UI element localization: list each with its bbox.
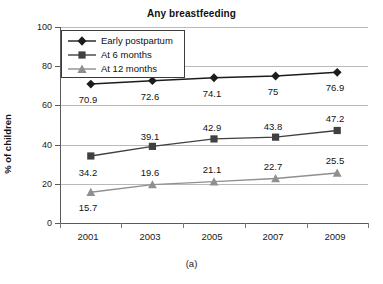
- chart-legend: Early postpartum At 6 months At 12 month…: [61, 30, 185, 78]
- legend-row-at-12-months[interactable]: At 12 months: [62, 62, 186, 76]
- data-label-s2-p1: 19.6: [127, 167, 173, 178]
- data-label-s2-p3: 22.7: [250, 161, 296, 172]
- data-label-s2-p4: 25.5: [312, 155, 358, 166]
- y-tick-mark-60: [55, 105, 60, 106]
- legend-row-early-postpartum[interactable]: Early postpartum: [62, 34, 186, 48]
- data-label-s0-p4: 76.9: [312, 82, 358, 93]
- data-label-s0-p1: 72.6: [127, 91, 173, 102]
- x-tick-mark-4: [307, 223, 308, 228]
- x-tick-label-2009: 2009: [305, 231, 365, 242]
- chart-title: Any breastfeeding: [0, 8, 383, 19]
- gridline-20: [60, 184, 368, 185]
- x-tick-label-2007: 2007: [243, 231, 303, 242]
- x-tick-mark-2: [183, 223, 184, 228]
- gridline-100: [60, 27, 368, 28]
- chart-figure: Any breastfeeding % of children 100 80 6…: [0, 0, 383, 284]
- y-tick-label-20: 20: [16, 179, 52, 189]
- gridline-40: [60, 145, 368, 146]
- data-label-s2-p2: 21.1: [189, 164, 235, 175]
- square-marker-icon: [67, 48, 97, 62]
- gridline-60: [60, 105, 368, 106]
- data-label-s0-p0: 70.9: [65, 94, 111, 105]
- data-label-s1-p3: 43.8: [250, 121, 296, 132]
- data-label-s1-p2: 42.9: [189, 122, 235, 133]
- y-tick-label-100: 100: [16, 22, 52, 32]
- y-tick-mark-40: [55, 145, 60, 146]
- x-tick-mark-1: [121, 223, 122, 228]
- data-label-s1-p4: 47.2: [312, 113, 358, 124]
- data-label-s0-p2: 74.1: [189, 88, 235, 99]
- y-axis-title: % of children: [2, 88, 13, 200]
- data-label-s2-p0: 15.7: [65, 202, 111, 213]
- x-tick-mark-3: [245, 223, 246, 228]
- x-tick-label-2001: 2001: [58, 231, 118, 242]
- legend-label-at-6-months: At 6 months: [101, 49, 152, 60]
- figure-caption: (a): [0, 258, 383, 269]
- x-tick-label-2005: 2005: [182, 231, 242, 242]
- y-tick-label-60: 60: [16, 100, 52, 110]
- legend-label-at-12-months: At 12 months: [101, 63, 157, 74]
- x-axis-line: [60, 223, 369, 224]
- y-tick-label-40: 40: [16, 140, 52, 150]
- x-tick-mark-0: [60, 223, 61, 228]
- legend-row-at-6-months[interactable]: At 6 months: [62, 48, 186, 62]
- data-label-s1-p1: 39.1: [127, 131, 173, 142]
- y-tick-label-80: 80: [16, 61, 52, 71]
- y-tick-mark-100: [55, 27, 60, 28]
- diamond-marker-icon: [67, 34, 97, 48]
- y-tick-label-0: 0: [16, 218, 52, 228]
- x-tick-mark-5: [368, 223, 369, 228]
- x-tick-label-2003: 2003: [120, 231, 180, 242]
- y-tick-mark-80: [55, 66, 60, 67]
- data-label-s1-p0: 34.2: [65, 167, 111, 178]
- legend-label-early-postpartum: Early postpartum: [101, 35, 173, 46]
- y-tick-mark-20: [55, 184, 60, 185]
- triangle-marker-icon: [67, 62, 97, 76]
- data-label-s0-p3: 75: [250, 86, 296, 97]
